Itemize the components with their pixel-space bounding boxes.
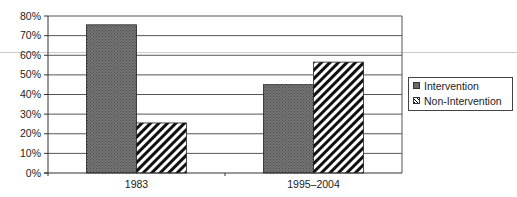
- bar-intervention: [264, 85, 314, 173]
- bar-non-intervention: [137, 123, 187, 173]
- y-tick-label: 80%: [20, 10, 41, 22]
- y-tick-label: 50%: [20, 68, 41, 80]
- x-category-label: 1995–2004: [287, 178, 340, 190]
- y-tick-label: 40%: [20, 88, 41, 100]
- intervention-swatch-icon: [413, 82, 420, 89]
- y-tick-label: 10%: [20, 147, 41, 159]
- x-category-label: 1983: [125, 178, 149, 190]
- bars: [87, 25, 364, 173]
- legend-item-intervention: Intervention: [409, 78, 512, 93]
- legend-item-non-intervention: Non-Intervention: [409, 93, 512, 108]
- legend-label: Intervention: [424, 80, 479, 92]
- non-intervention-swatch-icon: [413, 97, 420, 104]
- y-tick-label: 70%: [20, 29, 41, 41]
- y-tick-label: 60%: [20, 49, 41, 61]
- y-tick-label: 20%: [20, 127, 41, 139]
- bar-non-intervention: [314, 62, 364, 173]
- bar-intervention: [87, 25, 137, 173]
- legend: Intervention Non-Intervention: [408, 77, 513, 111]
- legend-label: Non-Intervention: [424, 95, 502, 107]
- y-tick-label: 30%: [20, 108, 41, 120]
- y-tick-label: 0%: [26, 167, 41, 179]
